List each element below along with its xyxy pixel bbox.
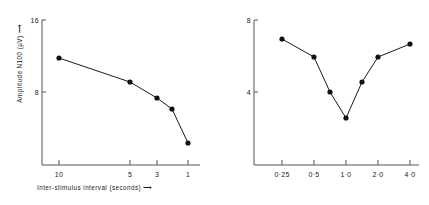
data-point: [169, 106, 174, 111]
y-tick-label-4: 4: [247, 89, 251, 96]
x-tick-label-3: 3: [155, 171, 159, 178]
y-axis-label-text: Amplitude N100 (µV): [16, 36, 23, 103]
x-tick-label-40: 4·0: [404, 171, 415, 178]
x-tick-label-10: 1·0: [340, 171, 351, 178]
data-point: [359, 79, 364, 84]
data-point: [327, 89, 332, 94]
data-point: [127, 79, 132, 84]
data-point: [343, 115, 348, 120]
data-point: [185, 140, 190, 145]
y-axis-arrow-icon: ⟶: [16, 24, 23, 33]
panel-inter-stimulus-interval: 16 8 10 5 3 1 Amplitude N100 (µV) ⟶ Inte…: [0, 0, 214, 205]
x-tick-label-20: 2·0: [372, 171, 383, 178]
plot-area-isi: 16 8 10 5 3 1: [0, 0, 214, 205]
data-point: [407, 41, 412, 46]
y-axis-label-group: Amplitude N100 (µV) ⟶: [16, 9, 23, 119]
panel-frequency-intervening-stimuli: 8 4 0·25 0·5 1·0 2·0 4·0 Frequency of in…: [214, 0, 428, 205]
x-tick-label-1: 1: [186, 171, 190, 178]
x-tick-label-5: 5: [128, 171, 132, 178]
x-axis-label-text: Inter-stimulus interval (seconds): [37, 184, 141, 191]
x-tick-label-10: 10: [55, 171, 63, 178]
data-line: [282, 39, 410, 118]
x-axis-arrow-icon: ⟶: [143, 184, 152, 191]
data-point: [311, 54, 316, 59]
data-point: [154, 95, 159, 100]
x-axis-caption-group: Inter-stimulus interval (seconds) ⟶: [37, 184, 152, 191]
figure-container: 16 8 10 5 3 1 Amplitude N100 (µV) ⟶ Inte…: [0, 0, 429, 205]
plot-area-frequency: 8 4 0·25 0·5 1·0 2·0 4·0: [214, 0, 429, 205]
data-point: [56, 55, 61, 60]
x-tick-label-025: 0·25: [274, 171, 289, 178]
data-line: [59, 58, 188, 143]
data-point: [375, 54, 380, 59]
data-point: [279, 36, 284, 41]
y-tick-label-16: 16: [31, 17, 39, 24]
x-tick-label-05: 0·5: [308, 171, 319, 178]
y-tick-label-8: 8: [247, 17, 251, 24]
y-tick-label-8: 8: [35, 89, 39, 96]
